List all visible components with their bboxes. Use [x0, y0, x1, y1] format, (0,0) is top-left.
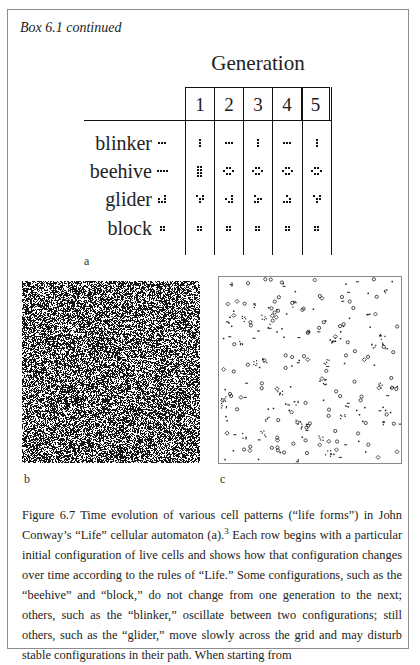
glider-gen5-pattern-icon: [313, 195, 321, 203]
blinker-gen4-pattern-icon: [283, 142, 291, 144]
column-divider: [331, 87, 332, 255]
glider-gen4-pattern-icon: [283, 195, 291, 203]
random-field-image: [22, 281, 200, 463]
beehive-gen3-pattern-icon: [252, 167, 263, 175]
table-rule: [84, 120, 332, 121]
row-label-beehive: beehive: [60, 160, 152, 183]
blinker-gen3-pattern-icon: [257, 139, 259, 147]
column-divider: [185, 87, 186, 255]
block-gen3-pattern-icon: [255, 226, 260, 231]
blinker-initial-pattern-icon: [158, 142, 166, 144]
glider-initial-pattern-icon: [158, 195, 166, 203]
evolved-field-image: [218, 276, 402, 464]
column-divider: [272, 87, 273, 255]
blinker-gen1-pattern-icon: [199, 139, 201, 147]
generation-3: 3: [243, 88, 272, 121]
beehive-initial-pattern-icon: [157, 170, 168, 172]
row-label-glider: glider: [60, 188, 152, 211]
row-label-blinker: blinker: [60, 132, 152, 155]
box-title: Box 6.1 continued: [20, 20, 121, 36]
block-gen2-pattern-icon: [226, 226, 231, 231]
glider-gen3-pattern-icon: [254, 195, 262, 203]
block-gen1-pattern-icon: [197, 226, 202, 231]
generation-header: Generation: [183, 51, 333, 76]
generation-5: 5: [301, 88, 330, 121]
row-label-block: block: [60, 217, 152, 240]
beehive-gen2-pattern-icon: [223, 167, 234, 175]
glider-gen1-pattern-icon: [196, 195, 204, 203]
panel-label-b: b: [24, 472, 30, 487]
column-divider: [302, 87, 303, 255]
beehive-gen5-pattern-icon: [311, 167, 322, 175]
beehive-gen1-pattern-icon: [197, 166, 202, 177]
generation-4: 4: [272, 88, 301, 121]
beehive-gen4-pattern-icon: [282, 167, 293, 175]
column-divider: [243, 87, 244, 255]
caption-text-2: Each row begins with a particular initia…: [22, 528, 402, 662]
glider-gen2-pattern-icon: [225, 195, 233, 203]
panel-label-c: c: [220, 472, 225, 487]
blinker-gen2-pattern-icon: [225, 142, 233, 144]
panel-label-a: a: [84, 254, 89, 269]
generation-2: 2: [214, 88, 243, 121]
block-gen5-pattern-icon: [314, 226, 319, 231]
block-initial-pattern-icon: [160, 226, 165, 231]
figure-caption: Figure 6.7 Time evolution of various cel…: [22, 505, 402, 665]
generation-columns: 1 2 3 4 5: [185, 87, 330, 121]
blinker-gen5-pattern-icon: [316, 139, 318, 147]
block-gen4-pattern-icon: [285, 226, 290, 231]
column-divider: [214, 87, 215, 255]
generation-1: 1: [185, 88, 214, 121]
